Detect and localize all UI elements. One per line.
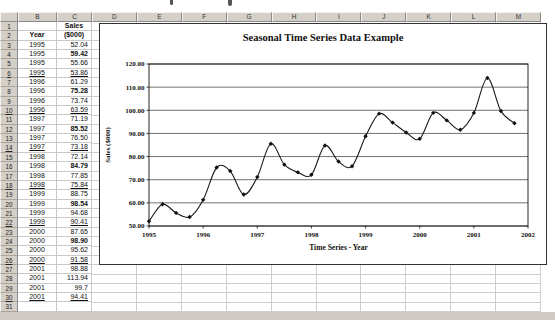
sales-cell-c6[interactable]: 53.86 <box>57 69 92 78</box>
year-cell-b4[interactable]: 1995 <box>18 50 57 59</box>
row-header-25[interactable]: 25 <box>0 246 18 255</box>
row-header-3[interactable]: 3 <box>0 41 18 50</box>
sales-cell-c15[interactable]: 72.14 <box>57 153 92 162</box>
sales-cell-c28[interactable]: 113.94 <box>57 274 92 283</box>
year-cell-b28[interactable]: 2001 <box>18 274 57 283</box>
year-cell-b16[interactable]: 1998 <box>18 162 57 171</box>
sales-cell-c18[interactable]: 75.84 <box>57 181 92 190</box>
row-header-10[interactable]: 10 <box>0 106 18 115</box>
sales-cell-c13[interactable]: 76.50 <box>57 134 92 143</box>
column-header-d[interactable]: D <box>92 12 137 22</box>
sales-cell-c24[interactable]: 98.90 <box>57 237 92 246</box>
row-header-21[interactable]: 21 <box>0 209 18 218</box>
column-header-b[interactable]: B <box>18 12 57 22</box>
sales-cell-c11[interactable]: 71.19 <box>57 115 92 124</box>
year-cell-b11[interactable]: 1997 <box>18 115 57 124</box>
year-cell-b13[interactable]: 1997 <box>18 134 57 143</box>
row-header-28[interactable]: 28 <box>0 274 18 283</box>
column-header-i[interactable]: I <box>316 12 361 22</box>
year-cell-b29[interactable]: 2001 <box>18 284 57 293</box>
row-header-15[interactable]: 15 <box>0 153 18 162</box>
sales-cell-c10[interactable]: 63.59 <box>57 106 92 115</box>
row-header-13[interactable]: 13 <box>0 134 18 143</box>
year-cell-b23[interactable]: 2000 <box>18 228 57 237</box>
year-cell-b31[interactable] <box>18 302 57 311</box>
year-cell-b15[interactable]: 1998 <box>18 153 57 162</box>
row-header-1[interactable]: 1 <box>0 22 18 31</box>
column-header-f[interactable]: F <box>182 12 227 22</box>
column-header-l[interactable]: L <box>451 12 496 22</box>
year-cell-b26[interactable]: 2000 <box>18 256 57 265</box>
row-header-30[interactable]: 30 <box>0 293 18 302</box>
year-cell-b22[interactable]: 1999 <box>18 218 57 227</box>
row-header-11[interactable]: 11 <box>0 115 18 124</box>
year-cell-b7[interactable]: 1996 <box>18 78 57 87</box>
year-cell-b17[interactable]: 1998 <box>18 172 57 181</box>
row-header-8[interactable]: 8 <box>0 87 18 96</box>
column-header-g[interactable]: G <box>227 12 272 22</box>
sales-cell-c1[interactable]: Sales <box>57 22 92 31</box>
sales-cell-c26[interactable]: 91.58 <box>57 256 92 265</box>
year-cell-b10[interactable]: 1996 <box>18 106 57 115</box>
year-cell-b20[interactable]: 1999 <box>18 200 57 209</box>
sales-cell-c3[interactable]: 52.04 <box>57 41 92 50</box>
column-header-j[interactable]: J <box>361 12 406 22</box>
sales-cell-c20[interactable]: 98.54 <box>57 200 92 209</box>
year-cell-b24[interactable]: 2000 <box>18 237 57 246</box>
column-header-c[interactable]: C <box>57 12 92 22</box>
sales-cell-c16[interactable]: 84.79 <box>57 162 92 171</box>
row-header-24[interactable]: 24 <box>0 237 18 246</box>
column-header-k[interactable]: K <box>406 12 451 22</box>
sales-cell-c23[interactable]: 87.65 <box>57 228 92 237</box>
row-header-17[interactable]: 17 <box>0 172 18 181</box>
sales-cell-c21[interactable]: 94.68 <box>57 209 92 218</box>
sales-cell-c4[interactable]: 59.42 <box>57 50 92 59</box>
year-cell-b3[interactable]: 1995 <box>18 41 57 50</box>
year-cell-b2[interactable]: Year <box>18 31 57 40</box>
row-header-16[interactable]: 16 <box>0 162 18 171</box>
row-header-2[interactable]: 2 <box>0 31 18 40</box>
sales-cell-c8[interactable]: 75.28 <box>57 87 92 96</box>
row-header-20[interactable]: 20 <box>0 200 18 209</box>
row-header-4[interactable]: 4 <box>0 50 18 59</box>
sales-cell-c7[interactable]: 61.29 <box>57 78 92 87</box>
row-header-14[interactable]: 14 <box>0 143 18 152</box>
sales-cell-c27[interactable]: 98.88 <box>57 265 92 274</box>
column-header-m[interactable]: M <box>496 12 541 22</box>
year-cell-b21[interactable]: 1999 <box>18 209 57 218</box>
row-header-5[interactable]: 5 <box>0 59 18 68</box>
row-header-22[interactable]: 22 <box>0 218 18 227</box>
row-header-29[interactable]: 29 <box>0 284 18 293</box>
column-header-h[interactable]: H <box>272 12 317 22</box>
year-cell-b12[interactable]: 1997 <box>18 125 57 134</box>
row-header-23[interactable]: 23 <box>0 228 18 237</box>
row-header-9[interactable]: 9 <box>0 97 18 106</box>
year-cell-b27[interactable]: 2001 <box>18 265 57 274</box>
row-header-6[interactable]: 6 <box>0 69 18 78</box>
year-cell-b25[interactable]: 2000 <box>18 246 57 255</box>
sales-cell-c30[interactable]: 94.41 <box>57 293 92 302</box>
row-header-7[interactable]: 7 <box>0 78 18 87</box>
year-cell-b5[interactable]: 1995 <box>18 59 57 68</box>
sales-cell-c2[interactable]: ($000) <box>57 31 92 40</box>
embedded-chart[interactable]: 120.00110.00100.0090.0080.0070.0060.0050… <box>99 23 547 265</box>
sales-cell-c9[interactable]: 73.74 <box>57 97 92 106</box>
row-header-26[interactable]: 26 <box>0 256 18 265</box>
sales-cell-c19[interactable]: 88.75 <box>57 190 92 199</box>
sales-cell-c5[interactable]: 55.66 <box>57 59 92 68</box>
select-all-corner-cell[interactable] <box>0 12 18 22</box>
year-cell-b9[interactable]: 1996 <box>18 97 57 106</box>
year-cell-b6[interactable]: 1995 <box>18 69 57 78</box>
year-cell-b8[interactable]: 1996 <box>18 87 57 96</box>
year-cell-b18[interactable]: 1998 <box>18 181 57 190</box>
column-header-e[interactable]: E <box>137 12 182 22</box>
sales-cell-c25[interactable]: 95.62 <box>57 246 92 255</box>
sales-cell-c31[interactable] <box>57 302 92 311</box>
year-cell-b19[interactable]: 1999 <box>18 190 57 199</box>
year-cell-b30[interactable]: 2001 <box>18 293 57 302</box>
row-header-12[interactable]: 12 <box>0 125 18 134</box>
sales-cell-c14[interactable]: 73.18 <box>57 143 92 152</box>
sales-cell-c29[interactable]: 99.7 <box>57 284 92 293</box>
row-header-18[interactable]: 18 <box>0 181 18 190</box>
year-cell-b14[interactable]: 1997 <box>18 143 57 152</box>
